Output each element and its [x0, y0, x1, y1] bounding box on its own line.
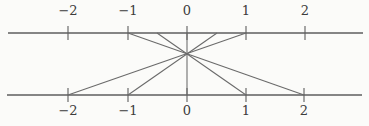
bottom-axis-label-2: 2 — [300, 104, 308, 118]
bottom-axis-label-neg2: −2 — [58, 104, 77, 118]
top-axis-label-2: 2 — [301, 4, 309, 18]
bottom-axis-label-1: 1 — [242, 104, 250, 118]
projection-ray-3 — [128, 33, 217, 95]
projection-ray-0 — [128, 33, 304, 95]
number-line-projection-figure: −2 −1 0 1 2 −2 −1 0 1 2 — [0, 0, 369, 126]
top-axis-label-neg1: −1 — [118, 4, 137, 18]
projection-ray-4 — [68, 33, 246, 95]
projection-ray-1 — [157, 33, 246, 95]
top-axis-label-neg2: −2 — [58, 4, 77, 18]
top-axis-label-1: 1 — [242, 4, 250, 18]
top-axis-label-0: 0 — [183, 4, 191, 18]
bottom-axis-label-0: 0 — [183, 104, 191, 118]
bottom-axis-label-neg1: −1 — [118, 104, 137, 118]
